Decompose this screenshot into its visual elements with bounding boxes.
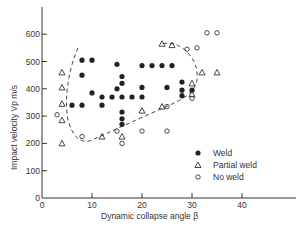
partial-weld-point: [189, 80, 195, 86]
partial-weld-point: [214, 69, 220, 75]
no-weld-point: [80, 134, 84, 138]
weld-point: [79, 103, 84, 108]
weld-point: [89, 90, 94, 95]
x-tick-label: 30: [187, 200, 197, 210]
legend-partial-weld-marker: [195, 162, 201, 168]
no-weld-point: [115, 129, 119, 133]
weld-boundary-dashed-curve: [66, 43, 197, 141]
weld-point: [159, 63, 164, 68]
weld-point: [69, 103, 74, 108]
weld-point: [139, 85, 144, 90]
no-weld-point: [205, 31, 209, 35]
weld-point: [149, 63, 154, 68]
x-ticks: 010203040: [40, 193, 247, 210]
data-points: [55, 31, 220, 146]
no-weld-point: [165, 129, 169, 133]
weld-point: [99, 94, 104, 99]
no-weld-point: [215, 31, 219, 35]
weld-point: [89, 58, 94, 63]
weld-point: [119, 74, 124, 79]
weld-point: [79, 58, 84, 63]
y-tick-label: 600: [26, 29, 40, 39]
no-weld-point: [55, 113, 59, 117]
weld-point: [119, 109, 124, 114]
weld-point: [119, 122, 124, 127]
x-tick-label: 0: [40, 200, 45, 210]
partial-weld-point: [159, 104, 165, 110]
weld-point: [99, 103, 104, 108]
weld-point: [139, 63, 144, 68]
x-tick-label: 40: [237, 200, 247, 210]
weld-point: [179, 79, 184, 84]
no-weld-point: [195, 46, 199, 50]
no-weld-point: [185, 47, 189, 51]
no-weld-point: [140, 129, 144, 133]
partial-weld-point: [119, 134, 125, 140]
weld-point: [164, 85, 169, 90]
partial-weld-point: [99, 134, 105, 140]
x-axis-label: Dynamic collapse angle β: [101, 211, 198, 221]
legend-no-weld-marker: [196, 175, 200, 179]
y-tick-label: 200: [26, 138, 40, 148]
y-tick-label: 500: [26, 57, 40, 67]
legend: Weld Partial weld No weld: [195, 148, 257, 182]
weld-point: [119, 94, 124, 99]
weld-point: [114, 62, 119, 67]
legend-weld-marker: [195, 150, 200, 155]
partial-weld-point: [59, 101, 65, 107]
y-tick-label: 300: [26, 111, 40, 121]
weld-point: [119, 81, 124, 86]
y-tick-label: 100: [26, 166, 40, 176]
weld-point: [109, 94, 114, 99]
y-ticks: 0100200300400500600: [26, 29, 47, 203]
weld-point: [139, 94, 144, 99]
scatter-chart: 0100200300400500600 010203040 Weld Parti…: [0, 0, 307, 235]
weld-point: [129, 94, 134, 99]
weld-point: [179, 88, 184, 93]
legend-partial-weld-label: Partial weld: [213, 160, 257, 170]
no-weld-point: [120, 141, 124, 145]
weld-point: [119, 116, 124, 121]
legend-no-weld-label: No weld: [213, 172, 244, 182]
weld-point: [169, 63, 174, 68]
legend-weld-label: Weld: [213, 148, 232, 158]
x-tick-label: 10: [87, 200, 97, 210]
partial-weld-point: [139, 108, 145, 114]
weld-point: [179, 93, 184, 98]
partial-weld-point: [59, 84, 65, 90]
partial-weld-point: [59, 69, 65, 75]
partial-weld-point: [59, 140, 65, 146]
partial-weld-point: [199, 69, 205, 75]
y-axis-label: Impact velocity Vp m/s: [9, 85, 19, 170]
x-tick-label: 20: [137, 200, 147, 210]
y-tick-label: 400: [26, 84, 40, 94]
weld-point: [79, 73, 84, 78]
partial-weld-point: [59, 117, 65, 123]
weld-point: [114, 86, 119, 91]
